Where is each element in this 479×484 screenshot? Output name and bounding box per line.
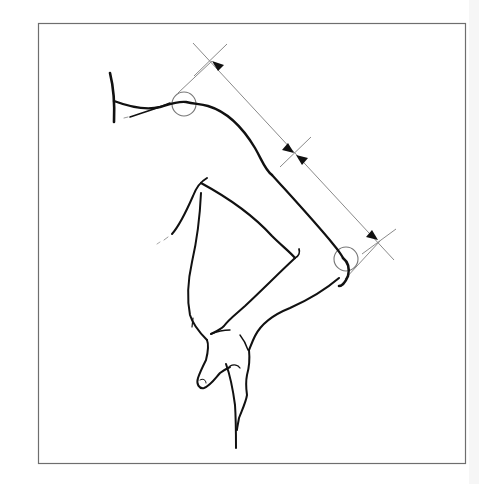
index-finger bbox=[226, 364, 236, 448]
dimension-lines bbox=[178, 43, 396, 279]
body-side bbox=[188, 193, 207, 340]
arrowhead-mid-lower-icon bbox=[296, 155, 308, 165]
elbow-crease bbox=[295, 249, 299, 258]
upper-arm-inner bbox=[201, 183, 295, 258]
arrowhead-mid-upper-icon bbox=[282, 143, 294, 153]
elbow-curl bbox=[339, 258, 349, 286]
finger-back bbox=[237, 350, 249, 430]
forearm-upper bbox=[211, 258, 295, 334]
arm-outline bbox=[110, 73, 349, 448]
arm-measurement-diagram bbox=[0, 0, 479, 484]
neck-stroke bbox=[110, 73, 114, 122]
dimension-arrowheads bbox=[212, 61, 378, 240]
chest-outline bbox=[172, 178, 207, 234]
figure-frame bbox=[39, 24, 466, 464]
